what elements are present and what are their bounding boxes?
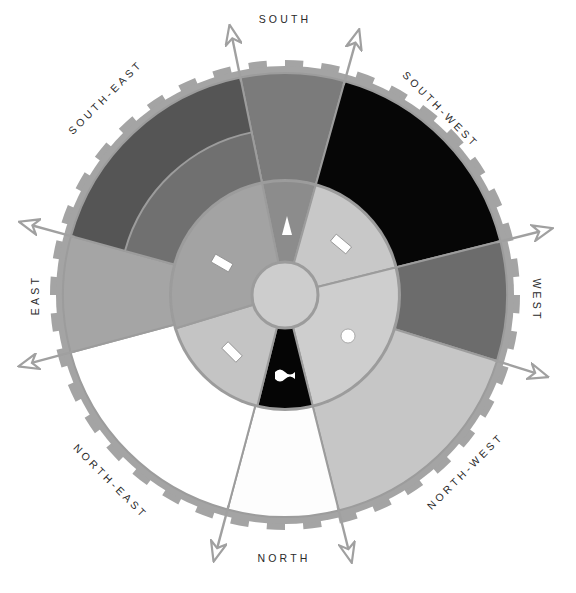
- label-west: WEST: [531, 278, 543, 321]
- hub-circle: [252, 262, 318, 328]
- label-east: EAST: [29, 275, 41, 315]
- label-south: SOUTH: [259, 13, 312, 25]
- label-north: NORTH: [257, 552, 310, 564]
- compass-diagram: SOUTHSOUTH-WESTWESTNORTH-WESTNORTHNORTH-…: [0, 0, 576, 593]
- circle-icon: [341, 329, 355, 343]
- center-hub: [252, 262, 318, 328]
